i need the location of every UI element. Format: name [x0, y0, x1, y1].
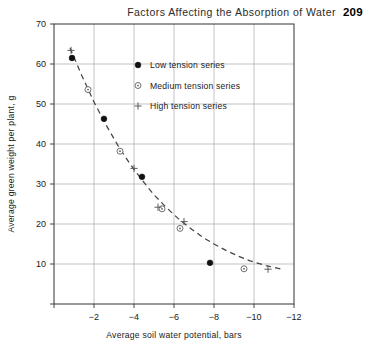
legend-item: Medium tension series	[135, 81, 240, 91]
legend-label: Low tension series	[150, 60, 225, 70]
x-tick-label: −12	[286, 312, 301, 322]
legend-marker-plus	[134, 102, 141, 109]
scatter-chart: −2−4−6−8−10−12 10203040506070 Low tensio…	[0, 0, 369, 358]
y-tick-label: 60	[36, 59, 46, 69]
y-tick-labels: 10203040506070	[36, 19, 46, 269]
x-tick-label: −8	[209, 312, 219, 322]
y-axis-title: Average green weight per plant, g	[6, 95, 16, 232]
y-tick-label: 10	[36, 259, 46, 269]
x-axis-title: Average soil water potential, bars	[106, 330, 241, 340]
legend: Low tension seriesMedium tension seriesH…	[134, 60, 240, 111]
chart-svg: −2−4−6−8−10−12 10203040506070 Low tensio…	[0, 0, 369, 358]
x-tick-label: −2	[89, 312, 99, 322]
figure-page: Factors Affecting the Absorption of Wate…	[0, 0, 369, 358]
x-tick-label: −10	[246, 312, 261, 322]
legend-label: Medium tension series	[150, 81, 240, 91]
legend-marker-open-circle	[135, 83, 141, 89]
x-tick-label: −4	[129, 312, 139, 322]
legend-item: Low tension series	[135, 60, 225, 70]
legend-item: High tension series	[134, 101, 226, 111]
x-tick-labels: −2−4−6−8−10−12	[89, 312, 302, 322]
series-open-circle	[85, 87, 247, 272]
y-tick-label: 70	[36, 19, 46, 29]
y-tick-label: 50	[36, 99, 46, 109]
y-tick-label: 40	[36, 139, 46, 149]
legend-marker-filled-circle	[135, 62, 141, 68]
legend-label: High tension series	[150, 101, 227, 111]
y-tick-label: 30	[36, 179, 46, 189]
y-tick-label: 20	[36, 219, 46, 229]
x-tick-label: −6	[169, 312, 179, 322]
